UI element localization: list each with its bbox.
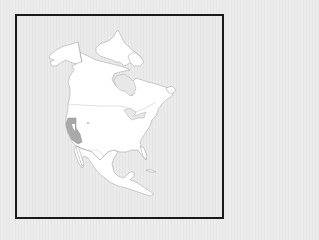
baffin-island <box>128 52 144 66</box>
cuba <box>146 170 156 172</box>
alaska <box>49 42 82 66</box>
north-america-map <box>0 0 233 225</box>
great-salt-lake <box>87 122 89 124</box>
